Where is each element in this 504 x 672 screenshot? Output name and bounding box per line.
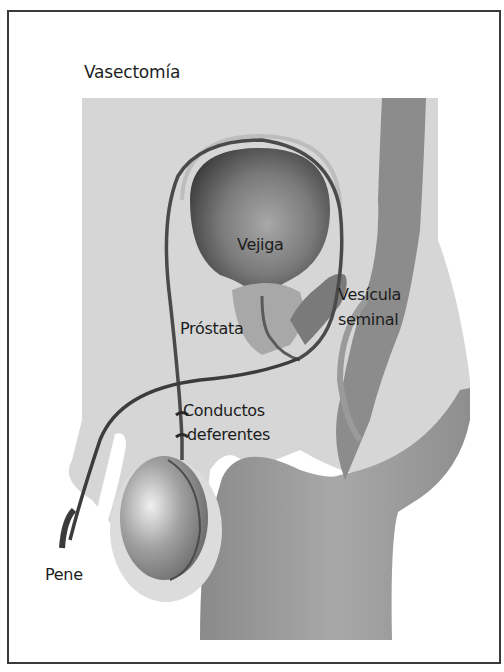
label-bladder: Vejiga: [237, 234, 284, 255]
label-vas-deferens-line1: Conductos: [183, 400, 265, 421]
testis: [120, 456, 208, 580]
label-seminal-vesicle-line1: Vesícula: [338, 284, 401, 305]
label-seminal-vesicle-line2: seminal: [338, 309, 399, 330]
label-vas-deferens-line2: deferentes: [187, 424, 270, 445]
label-penis: Pene: [45, 564, 83, 585]
figure-title: Vasectomía: [84, 62, 180, 82]
label-prostate: Próstata: [180, 318, 243, 339]
